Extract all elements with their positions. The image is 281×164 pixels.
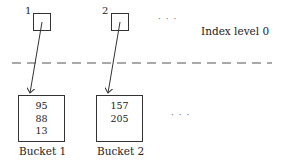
bucket-1-value: 95 xyxy=(19,100,64,113)
bucket-2-value: 205 xyxy=(97,113,142,126)
pointer-arrow-1 xyxy=(30,22,42,93)
bucket-2-value: 157 xyxy=(97,100,142,113)
bucket-2-label: Bucket 2 xyxy=(97,146,144,157)
bucket-1-label: Bucket 1 xyxy=(19,146,66,157)
pointer-arrow-2 xyxy=(108,22,120,93)
bucket-ellipsis: · · · xyxy=(171,110,190,120)
index-level-label: Index level 0 xyxy=(201,26,269,36)
bucket-1-value: 13 xyxy=(19,125,64,138)
bucket-1: 95 88 13 xyxy=(18,95,65,142)
index-ellipsis: · · · xyxy=(158,14,177,24)
index-entry-label-1: 1 xyxy=(25,6,31,16)
index-entry-label-2: 2 xyxy=(102,6,108,16)
bucket-2: 157 205 xyxy=(96,95,143,142)
bucket-1-value: 88 xyxy=(19,113,64,126)
